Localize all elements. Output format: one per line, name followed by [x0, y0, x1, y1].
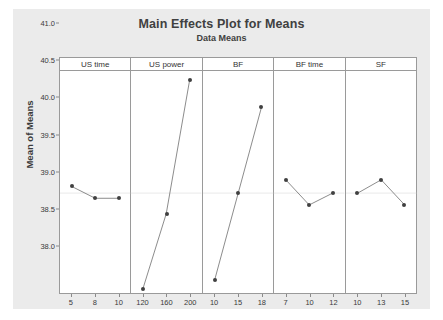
- panel-header-us-time: US time: [60, 58, 131, 70]
- x-tick-mark: [95, 294, 96, 297]
- x-ticks-bf: 101518: [202, 294, 274, 310]
- series-line: [357, 180, 404, 205]
- plot-area: US timeUS powerBFBF timeSF: [59, 57, 417, 294]
- x-tick-mark: [71, 294, 72, 297]
- data-point: [213, 278, 217, 282]
- x-tick-label: 15: [234, 298, 242, 307]
- x-tick-mark: [262, 294, 263, 297]
- x-axis-ticks: 581012016020010151871012101315: [59, 294, 417, 310]
- x-tick-label: 160: [160, 298, 173, 307]
- panels-body: [59, 71, 417, 294]
- y-tick-label: 41.0: [40, 19, 55, 28]
- x-tick-label: 12: [329, 298, 337, 307]
- y-tick-label: 38.0: [40, 242, 55, 251]
- x-tick-mark: [166, 294, 167, 297]
- x-tick-label: 200: [184, 298, 197, 307]
- x-tick-label: 7: [284, 298, 288, 307]
- series-line: [143, 80, 190, 289]
- x-tick-label: 18: [258, 298, 266, 307]
- x-tick-label: 10: [210, 298, 218, 307]
- x-tick-mark: [214, 294, 215, 297]
- panel-header-bf-time: BF time: [274, 58, 345, 70]
- x-tick-label: 8: [93, 298, 97, 307]
- x-tick-mark: [357, 294, 358, 297]
- x-tick-label: 120: [136, 298, 149, 307]
- y-tick-label: 40.0: [40, 93, 55, 102]
- y-tick-label: 40.5: [40, 56, 55, 65]
- panel-bf: [203, 71, 274, 293]
- x-tick-label: 5: [69, 298, 73, 307]
- x-ticks-sf: 101315: [345, 294, 417, 310]
- x-tick-mark: [310, 294, 311, 297]
- panel-plot: [274, 71, 344, 293]
- panel-plot: [346, 71, 416, 293]
- y-tick-mark: [56, 23, 59, 24]
- panel-header-row: US timeUS powerBFBF timeSF: [59, 57, 417, 71]
- x-tick-mark: [238, 294, 239, 297]
- chart-subtitle: Data Means: [13, 32, 430, 44]
- data-point: [165, 212, 169, 216]
- y-tick-label: 38.5: [40, 204, 55, 213]
- data-point: [284, 178, 288, 182]
- x-tick-mark: [405, 294, 406, 297]
- x-tick-label: 10: [353, 298, 361, 307]
- chart-title: Main Effects Plot for Means: [13, 17, 430, 32]
- data-point: [117, 196, 121, 200]
- panel-plot: [60, 71, 130, 293]
- title-block: Main Effects Plot for Means Data Means: [13, 17, 430, 44]
- y-axis-ticks: 38.038.539.039.540.040.541.0: [13, 23, 59, 246]
- panel-bf-time: [274, 71, 345, 293]
- x-tick-label: 10: [305, 298, 313, 307]
- chart-figure: Main Effects Plot for Means Data Means M…: [13, 9, 430, 309]
- x-ticks-us-power: 120160200: [131, 294, 203, 310]
- data-point: [331, 191, 335, 195]
- x-tick-mark: [119, 294, 120, 297]
- x-tick-mark: [190, 294, 191, 297]
- x-ticks-us-time: 5810: [59, 294, 131, 310]
- y-tick-label: 39.5: [40, 130, 55, 139]
- panel-header-us-power: US power: [131, 58, 202, 70]
- panel-us-time: [60, 71, 131, 293]
- panel-header-sf: SF: [346, 58, 416, 70]
- panel-plot: [203, 71, 273, 293]
- panel-sf: [346, 71, 416, 293]
- x-tick-label: 15: [401, 298, 409, 307]
- x-ticks-bf-time: 71012: [274, 294, 346, 310]
- data-point: [188, 78, 192, 82]
- x-tick-mark: [333, 294, 334, 297]
- series-line: [286, 180, 333, 205]
- y-tick-label: 39.0: [40, 167, 55, 176]
- data-point: [379, 178, 383, 182]
- x-tick-mark: [381, 294, 382, 297]
- x-tick-label: 10: [114, 298, 122, 307]
- x-tick-label: 13: [377, 298, 385, 307]
- x-tick-mark: [286, 294, 287, 297]
- x-tick-mark: [143, 294, 144, 297]
- panel-plot: [131, 71, 201, 293]
- panel-us-power: [131, 71, 202, 293]
- panel-header-bf: BF: [203, 58, 274, 70]
